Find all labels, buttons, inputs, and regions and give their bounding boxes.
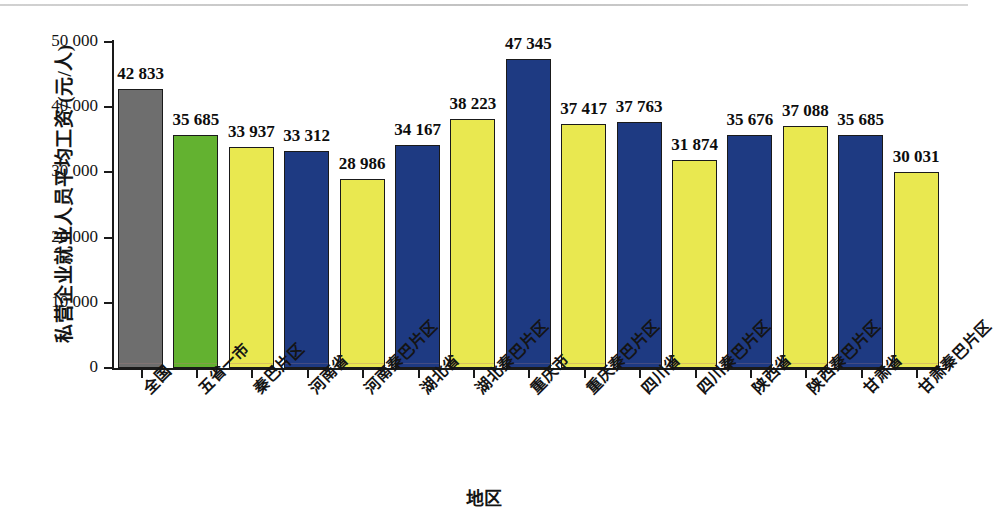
bar[interactable] (229, 147, 274, 368)
y-axis-tick (104, 106, 113, 108)
bar[interactable] (173, 135, 218, 368)
bar[interactable] (783, 126, 828, 368)
bar[interactable] (340, 179, 385, 368)
bar-value-label: 33 312 (270, 126, 344, 146)
bar-value-label: 30 031 (879, 147, 953, 167)
bar[interactable] (672, 160, 717, 368)
y-axis-tick (104, 237, 113, 239)
bar-value-label: 42 833 (104, 64, 178, 84)
y-axis-line (112, 40, 114, 370)
y-axis-tick (104, 41, 113, 43)
bar-value-label: 35 685 (824, 110, 898, 130)
bar[interactable] (894, 172, 939, 368)
y-axis-tick-label: 40 000 (18, 96, 98, 116)
y-axis-tick (104, 302, 113, 304)
bar[interactable] (561, 124, 606, 368)
bar[interactable] (450, 119, 495, 368)
y-axis-tick-label: 0 (18, 357, 98, 377)
y-axis-title: 私营企业就业人员平均工资/(元/人) (49, 14, 76, 374)
y-axis-tick-label: 50 000 (18, 31, 98, 51)
bar-value-label: 37 763 (602, 97, 676, 117)
bar-value-label: 34 167 (381, 120, 455, 140)
bar[interactable] (284, 151, 329, 368)
y-axis-tick (104, 367, 113, 369)
y-axis-tick-label: 20 000 (18, 227, 98, 247)
bar-value-label: 28 986 (325, 154, 399, 174)
bar-value-label: 47 345 (491, 34, 565, 54)
y-axis-tick-label: 30 000 (18, 161, 98, 181)
y-axis-tick-label: 10 000 (18, 292, 98, 312)
y-axis-tick (104, 171, 113, 173)
bar[interactable] (118, 89, 163, 368)
bar-value-label: 31 874 (658, 135, 732, 155)
bar-value-label: 38 223 (436, 94, 510, 114)
x-axis-title: 地区 (0, 484, 968, 510)
